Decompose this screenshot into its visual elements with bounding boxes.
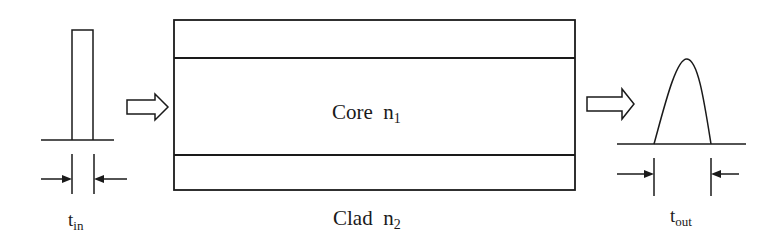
clad-label: Clad n2 — [333, 206, 401, 232]
output-pulse — [617, 59, 746, 144]
core-label: Core n1 — [332, 100, 401, 126]
input-to-fiber-arrow-icon — [127, 94, 168, 120]
input-pulse — [41, 30, 114, 140]
output-width-label: tout — [670, 205, 692, 229]
fiber-to-output-arrow-icon — [587, 89, 634, 119]
input-width-label: tin — [68, 209, 84, 233]
output-width-marker — [617, 158, 739, 196]
fiber-dispersion-diagram: tin Core n1 Clad n2 tout — [0, 0, 777, 244]
input-rect-pulse — [72, 30, 93, 140]
input-width-marker — [41, 154, 127, 194]
output-broadened-pulse — [654, 59, 711, 144]
